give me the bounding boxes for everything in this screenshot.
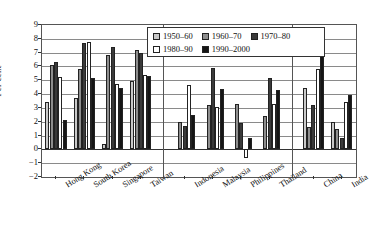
x-axis-label-india: India xyxy=(350,182,355,189)
legend-item-1960-70: 1960–70 xyxy=(202,32,242,41)
bar-group xyxy=(70,25,98,177)
x-axis-label-hong-kong: Hong Kong xyxy=(64,182,69,189)
bar-1990-2000-india xyxy=(348,95,352,149)
x-axis-label-indonesia: Indonesia xyxy=(193,182,198,189)
legend-item-1950-60: 1950–60 xyxy=(153,32,193,41)
x-axis-label-china: China xyxy=(322,182,327,189)
x-axis-tick xyxy=(313,176,314,179)
legend-label: 1990–2000 xyxy=(212,45,250,54)
bar-group xyxy=(328,25,356,177)
bar-1990-2000-thailand xyxy=(276,90,280,149)
x-axis-label-taiwan: Taiwan xyxy=(149,182,154,189)
legend-swatch-icon xyxy=(251,33,258,40)
x-axis-tick xyxy=(341,176,342,179)
bar-1990-2000-malaysia xyxy=(220,89,224,150)
y-axis-tick-label: 1 xyxy=(0,130,42,139)
x-axis-tick xyxy=(55,176,56,179)
x-axis-tick xyxy=(83,176,84,179)
y-axis-tick-label: 5 xyxy=(0,75,42,84)
legend-item-1990-2000: 1990–2000 xyxy=(202,45,250,54)
y-axis-tick-label: 0 xyxy=(0,144,42,153)
bar-1990-2000-taiwan xyxy=(147,76,151,149)
legend-swatch-icon xyxy=(202,33,209,40)
y-axis-tick-label: 4 xyxy=(0,89,42,98)
y-axis-tick-label: 2 xyxy=(0,116,42,125)
legend-label: 1950–60 xyxy=(163,32,193,41)
x-axis-tick xyxy=(112,176,113,179)
bar-1990-2000-south-korea xyxy=(91,78,95,149)
y-axis-tick-label: 8 xyxy=(0,34,42,43)
bar-1990-2000-hong-kong xyxy=(63,120,67,149)
bar-1990-2000-singapore xyxy=(119,88,123,149)
y-axis-tick-label: 7 xyxy=(0,47,42,56)
bar-1980-90-philippines xyxy=(244,149,248,157)
legend-row-2: 1980–90 1990–2000 xyxy=(153,43,320,56)
bar-1990-2000-indonesia xyxy=(191,115,195,150)
x-axis-label-malaysia: Malaysia xyxy=(221,182,226,189)
y-axis-tick-label: 3 xyxy=(0,103,42,112)
y-axis-tick-label: −1 xyxy=(0,158,42,167)
x-axis-tick xyxy=(140,176,141,179)
y-axis-tick-label: −2 xyxy=(0,172,42,181)
x-axis-tick xyxy=(212,176,213,179)
x-axis-tick xyxy=(269,176,270,179)
x-axis-label-south-korea: South Korea xyxy=(92,182,97,189)
bar-1970-80-philippines xyxy=(239,123,243,149)
bar-group xyxy=(42,25,70,177)
chart-legend: 1950–60 1960–70 1970–80 1980–90 1990–200… xyxy=(147,27,325,57)
legend-swatch-icon xyxy=(153,33,160,40)
chart-figure: Per cent −2−10123456789 1950–60 1960–70 … xyxy=(0,0,385,237)
legend-swatch-icon xyxy=(202,46,209,53)
x-axis-label-thailand: Thailand xyxy=(278,182,283,189)
x-axis-tick xyxy=(240,176,241,179)
legend-row-1: 1950–60 1960–70 1970–80 xyxy=(153,30,320,43)
bar-group xyxy=(99,25,127,177)
bar-1990-2000-china xyxy=(320,55,324,149)
legend-label: 1980–90 xyxy=(163,45,193,54)
x-axis-tick xyxy=(184,176,185,179)
legend-item-1970-80: 1970–80 xyxy=(251,32,291,41)
y-axis-tick-label: 9 xyxy=(0,20,42,29)
legend-label: 1960–70 xyxy=(212,32,242,41)
y-axis-tick-label: 6 xyxy=(0,61,42,70)
x-axis-label-philippines: Philippines xyxy=(249,182,254,189)
legend-swatch-icon xyxy=(153,46,160,53)
legend-label: 1970–80 xyxy=(261,32,291,41)
legend-item-1980-90: 1980–90 xyxy=(153,45,193,54)
bar-1990-2000-philippines xyxy=(248,138,252,149)
x-axis-label-singapore: Singapore xyxy=(121,182,126,189)
